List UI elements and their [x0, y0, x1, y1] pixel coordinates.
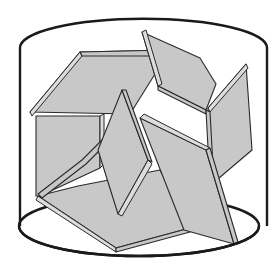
plates-group: [30, 30, 252, 252]
cylinder-plates-diagram: [0, 0, 279, 269]
upper-left-plate: [30, 50, 170, 116]
upper-left-plate-face: [30, 50, 170, 114]
